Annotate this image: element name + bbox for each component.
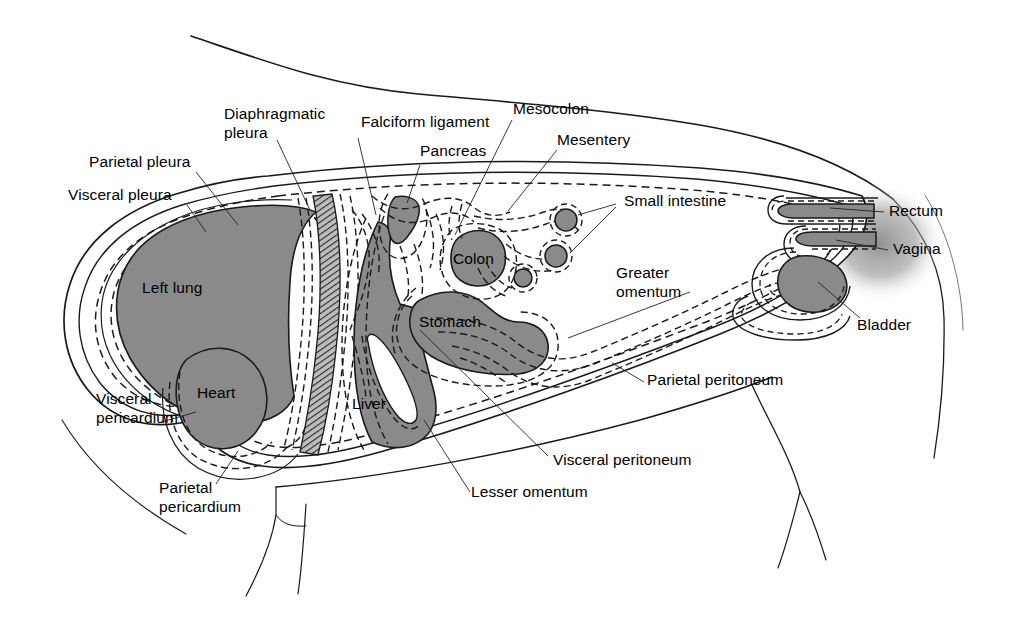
vagina-organ xyxy=(796,232,876,246)
label-visceral-pericardium-line2: pericardium xyxy=(96,409,178,427)
label-diaphragmatic-pleura-line1: Diaphragmatic xyxy=(224,105,325,123)
label-bladder: Bladder xyxy=(857,316,911,334)
label-parietal-peritoneum: Parietal peritoneum xyxy=(647,371,783,389)
label-parietal-pericardium-line1: Parietal xyxy=(159,479,212,497)
label-greater-omentum-line2: omentum xyxy=(616,283,681,301)
label-diaphragmatic-pleura-line2: pleura xyxy=(224,124,268,142)
label-visceral-pleura: Visceral pleura xyxy=(68,186,172,204)
small-intestine-loop xyxy=(555,209,577,231)
label-liver: Liver xyxy=(352,395,386,413)
label-mesentery: Mesentery xyxy=(557,131,630,149)
label-parietal-pleura: Parietal pleura xyxy=(89,153,190,171)
label-lesser-omentum: Lesser omentum xyxy=(471,483,588,501)
small-intestine-loop xyxy=(514,269,532,287)
label-mesocolon: Mesocolon xyxy=(513,100,589,118)
label-stomach: Stomach xyxy=(419,313,481,331)
label-rectum: Rectum xyxy=(889,202,943,220)
label-falciform-ligament: Falciform ligament xyxy=(361,113,489,131)
label-left-lung: Left lung xyxy=(142,279,202,297)
label-visceral-peritoneum: Visceral peritoneum xyxy=(553,451,692,469)
diagram-canvas: Parietal pleura Visceral pleura Diaphrag… xyxy=(0,0,1036,625)
label-parietal-pericardium-line2: pericardium xyxy=(159,498,241,516)
label-small-intestine: Small intestine xyxy=(624,192,726,210)
label-heart: Heart xyxy=(197,384,235,402)
label-visceral-pericardium-line1: Visceral xyxy=(96,390,152,408)
label-pancreas: Pancreas xyxy=(420,142,486,160)
small-intestine-loop xyxy=(545,245,567,267)
label-vagina: Vagina xyxy=(893,240,941,258)
anatomical-diagram-svg xyxy=(0,0,1036,625)
label-greater-omentum-line1: Greater xyxy=(616,264,669,282)
rectum-organ xyxy=(778,204,874,218)
label-colon: Colon xyxy=(453,250,494,268)
